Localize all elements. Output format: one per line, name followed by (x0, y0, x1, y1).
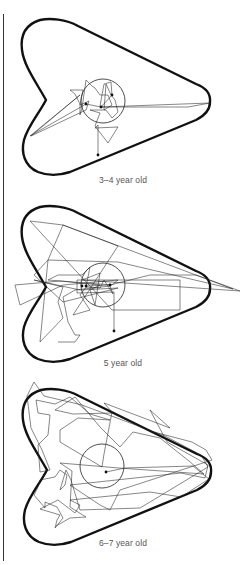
trajectory-dot (81, 285, 84, 288)
heart-boundary-outline (22, 19, 210, 175)
trajectory-dot (97, 154, 100, 157)
panel-caption: 5 year old (0, 358, 246, 368)
trajectory-dot (109, 284, 112, 287)
heart-boundary-outline (23, 389, 211, 545)
trajectory-panel-2: 5 year old (0, 185, 246, 375)
trajectory-dot (85, 285, 88, 288)
trajectory-dot (111, 94, 114, 97)
trajectory-endpoints (85, 94, 114, 157)
trajectory-plot (0, 185, 246, 370)
movement-trajectory (30, 80, 210, 155)
trajectory-dot (85, 103, 88, 106)
trajectory-dot (105, 471, 108, 474)
panel-caption: 6–7 year old (0, 538, 246, 548)
panel-caption: 3–4 year old (0, 175, 246, 185)
trajectory-dot (113, 330, 116, 333)
trajectory-plot (0, 0, 246, 185)
center-circle (81, 79, 125, 123)
trajectory-dot (100, 106, 103, 109)
movement-trajectory (15, 221, 240, 342)
trajectory-plot (0, 370, 246, 555)
trajectory-panel-3: 6–7 year old (0, 370, 246, 560)
movement-trajectory (27, 382, 212, 528)
trajectory-panel-1: 3–4 year old (0, 0, 246, 190)
trajectory-endpoints (105, 471, 108, 474)
